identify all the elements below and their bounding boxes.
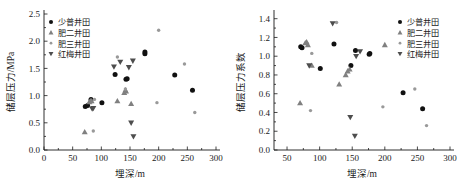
- data-point: [117, 60, 123, 65]
- legend-marker-filled-circle: [49, 20, 53, 24]
- data-point: [297, 100, 303, 105]
- y-tick-label: 2.5: [29, 9, 41, 19]
- legend-marker-triangle-up: [49, 30, 54, 34]
- x-tick-label: 250: [181, 153, 195, 163]
- x-tick-label: 200: [152, 153, 166, 163]
- legend-marker-small-circle: [50, 42, 53, 45]
- legend-marker-filled-circle: [398, 20, 402, 24]
- legend-marker-triangle-down: [49, 52, 54, 56]
- data-point: [125, 76, 130, 81]
- legend: 少普井田肥二井田肥三井田红梅井田: [398, 17, 439, 59]
- legend-label: 肥三井田: [58, 39, 90, 49]
- data-point: [330, 21, 336, 26]
- x-axis-ticks: 50100150200250300: [283, 147, 458, 164]
- data-point: [190, 88, 195, 93]
- y-tick-label: 0.0: [259, 145, 271, 155]
- legend-label: 红梅井田: [407, 49, 439, 59]
- data-point: [111, 65, 117, 70]
- reservoir-pressure-coefficient-vs-depth: 501001502002503000.00.20.40.60.81.01.21.…: [230, 0, 460, 194]
- y-tick-label: 1.5: [29, 64, 41, 74]
- data-point: [353, 48, 358, 53]
- data-point: [381, 105, 384, 108]
- data-point: [413, 87, 416, 90]
- data-point: [114, 98, 120, 103]
- y-tick-label: 1.0: [259, 51, 271, 61]
- x-tick-label: 150: [345, 153, 359, 163]
- data-point: [92, 129, 95, 132]
- data-point: [309, 109, 312, 112]
- data-point: [318, 66, 323, 71]
- figure-container: 0501001502002503000.00.51.01.52.02.5埋深/m…: [0, 0, 460, 194]
- y-axis-ticks: 0.00.51.01.52.02.5: [29, 9, 48, 155]
- x-axis-title: 埋深/m: [115, 169, 146, 179]
- x-tick-label: 250: [411, 153, 425, 163]
- y-tick-label: 0.8: [259, 70, 271, 80]
- x-tick-label: 300: [443, 153, 457, 163]
- legend-label: 少普井田: [407, 17, 439, 27]
- data-point: [99, 100, 104, 105]
- x-tick-label: 100: [95, 153, 109, 163]
- y-axis-title: 储层压力/MPa: [5, 51, 16, 112]
- data-point: [401, 90, 406, 95]
- legend-label: 肥二井田: [58, 28, 90, 38]
- y-tick-label: 0.0: [29, 145, 41, 155]
- data-point: [425, 124, 428, 127]
- data-point: [128, 121, 134, 126]
- data-point: [142, 50, 147, 55]
- data-point: [331, 42, 336, 47]
- legend-marker-small-circle: [399, 42, 402, 45]
- data-series-1: [83, 50, 195, 109]
- data-point: [367, 51, 372, 56]
- data-series-4: [306, 21, 363, 139]
- data-series-4: [89, 59, 136, 140]
- x-tick-label: 50: [68, 153, 78, 163]
- legend-label: 肥三井田: [407, 39, 439, 49]
- data-point: [128, 101, 134, 106]
- y-tick-label: 1.2: [259, 33, 270, 43]
- y-tick-label: 0.4: [259, 108, 271, 118]
- data-point: [155, 101, 158, 104]
- data-series-2: [82, 87, 134, 134]
- data-point: [382, 42, 388, 47]
- data-point: [172, 72, 177, 77]
- y-tick-label: 2.0: [29, 36, 41, 46]
- legend-label: 红梅井田: [58, 49, 90, 59]
- x-tick-label: 50: [283, 153, 293, 163]
- data-point: [126, 65, 132, 70]
- data-point: [352, 134, 358, 139]
- x-axis-title: 埋深/m: [347, 169, 378, 179]
- data-point: [193, 111, 196, 114]
- data-point: [310, 52, 313, 55]
- x-tick-label: 300: [209, 153, 223, 163]
- data-point: [130, 59, 136, 64]
- reservoir-pressure-vs-depth: 0501001502002503000.00.51.01.52.02.5埋深/m…: [0, 0, 230, 194]
- y-axis-title: 储层压力系数: [235, 52, 246, 112]
- data-point: [353, 54, 359, 59]
- legend: 少普井田肥二井田肥三井田红梅井田: [49, 17, 90, 59]
- y-axis-ticks: 0.00.20.40.60.81.01.21.4: [259, 14, 278, 155]
- data-series-2: [297, 39, 388, 105]
- legend-label: 肥二井田: [407, 28, 439, 38]
- chart-panel-left: 0501001502002503000.00.51.01.52.02.5埋深/m…: [0, 0, 230, 194]
- x-tick-label: 100: [313, 153, 327, 163]
- x-tick-label: 0: [42, 153, 47, 163]
- data-point: [300, 45, 305, 50]
- legend-label: 少普井田: [58, 17, 90, 27]
- data-point: [336, 81, 342, 86]
- legend-marker-triangle-up: [398, 30, 403, 34]
- y-tick-label: 1.0: [29, 91, 41, 101]
- y-tick-label: 0.5: [29, 118, 41, 128]
- x-axis-ticks: 050100150200250300: [42, 147, 224, 164]
- y-tick-label: 1.4: [259, 14, 271, 24]
- data-point: [124, 87, 127, 90]
- data-point: [183, 62, 186, 65]
- chart-panel-right: 501001502002503000.00.20.40.60.81.01.21.…: [230, 0, 460, 194]
- y-tick-label: 0.2: [259, 126, 270, 136]
- legend-marker-triangle-down: [398, 52, 403, 56]
- data-point: [347, 115, 353, 120]
- data-point: [113, 72, 118, 77]
- data-point: [157, 29, 160, 32]
- data-point: [357, 49, 363, 54]
- x-tick-label: 150: [123, 153, 137, 163]
- y-tick-label: 0.6: [259, 89, 271, 99]
